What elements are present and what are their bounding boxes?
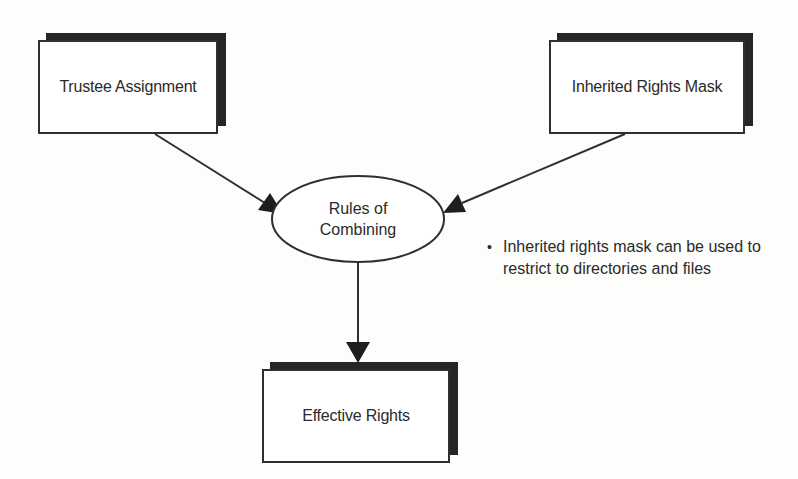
note-text: Inherited rights mask can be used to res… (503, 236, 773, 280)
arrow-trustee-to-rules (155, 134, 283, 214)
rules-label-line1: Rules of (272, 198, 444, 219)
inherited-rights-mask-label: Inherited Rights Mask (572, 78, 723, 96)
trustee-assignment-label: Trustee Assignment (59, 78, 196, 96)
effective-rights-label: Effective Rights (302, 407, 410, 425)
rules-of-combining-label: Rules of Combining (272, 198, 444, 240)
effective-rights-box: Effective Rights (262, 369, 450, 463)
arrow-irm-to-rules (443, 134, 625, 213)
inherited-rights-mask-box: Inherited Rights Mask (549, 40, 745, 134)
rules-label-line2: Combining (272, 219, 444, 240)
note-bullet: • Inherited rights mask can be used to r… (487, 236, 787, 280)
arrow-rules-to-effective (346, 262, 370, 363)
trustee-assignment-box: Trustee Assignment (38, 40, 218, 134)
bullet-icon: • (487, 236, 503, 280)
